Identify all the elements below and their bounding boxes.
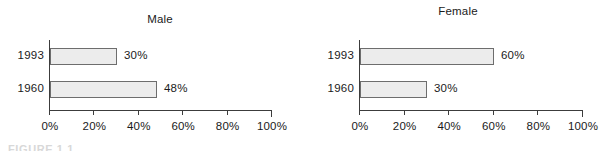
x-tick-male-0 [49,110,50,115]
bar-male-1993 [50,48,117,65]
x-tick-female-80 [537,110,538,115]
chart-title-male: Male [110,13,210,25]
bar-female-1993 [360,48,494,65]
plot-area-female: 0% 20% 40% 60% 80% 100% 60% 30% [360,40,583,110]
x-tick-male-100 [271,110,272,117]
x-tick-male-20 [93,110,94,115]
x-tick-female-20 [404,110,405,115]
x-ticklabel-female-20: 20% [393,120,417,132]
x-ticklabel-female-0: 0% [351,120,368,132]
plot-area-male: 0% 20% 40% 60% 80% 100% 30% 48% [50,40,272,110]
x-tick-male-40 [138,110,139,115]
x-axis-line-male [49,110,272,111]
x-ticklabel-male-20: 20% [83,120,107,132]
x-ticklabel-female-60: 60% [482,120,506,132]
x-tick-female-60 [493,110,494,115]
bar-value-male-1960: 48% [164,82,188,94]
bar-value-female-1993: 60% [501,49,525,61]
x-ticklabel-male-40: 40% [127,120,151,132]
category-label-male-1960: 1960 [8,82,44,94]
x-ticklabel-female-100: 100% [568,120,598,132]
category-label-female-1993: 1993 [317,49,354,61]
x-tick-male-80 [227,110,228,115]
x-tick-female-100 [582,110,583,117]
x-axis-line-female [359,110,582,111]
x-tick-female-0 [359,110,360,115]
x-ticklabel-male-100: 100% [257,120,287,132]
figure-caption-clipped: FIGURE 1.1 [8,144,74,151]
category-label-female-1960: 1960 [317,82,354,94]
bar-value-male-1993: 30% [124,49,148,61]
bar-male-1960 [50,81,157,98]
x-tick-female-40 [448,110,449,115]
chart-panel-female: Female 1993 1960 0% 20% 40% 60% 80% 100%… [303,0,605,151]
x-ticklabel-male-0: 0% [41,120,58,132]
x-ticklabel-male-80: 80% [216,120,240,132]
x-tick-male-60 [182,110,183,115]
bar-female-1960 [360,81,427,98]
figure-canvas: Male 1993 1960 0% 20% 40% 60% 80% 100% 3… [0,0,605,151]
bar-value-female-1960: 30% [434,82,458,94]
chart-title-female: Female [408,5,508,17]
x-ticklabel-female-80: 80% [527,120,551,132]
chart-panel-male: Male 1993 1960 0% 20% 40% 60% 80% 100% 3… [0,0,303,151]
x-ticklabel-female-40: 40% [437,120,461,132]
category-label-male-1993: 1993 [8,49,44,61]
x-ticklabel-male-60: 60% [171,120,195,132]
